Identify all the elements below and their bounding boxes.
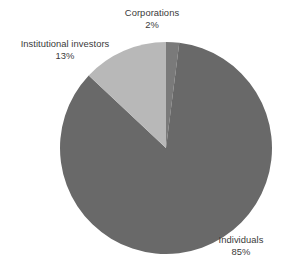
pie-label-institutional-investors-value: 13% xyxy=(2,50,128,62)
pie-label-institutional-investors-name: Institutional investors xyxy=(2,38,128,50)
pie-label-corporations-name: Corporations xyxy=(106,7,198,19)
pie-label-individuals-name: Individuals xyxy=(196,234,286,246)
pie-label-individuals-value: 85% xyxy=(196,246,286,258)
pie-chart-figure: Corporations 2% Institutional investors … xyxy=(0,0,288,276)
pie-label-individuals: Individuals 85% xyxy=(196,234,286,257)
pie-label-corporations-value: 2% xyxy=(106,19,198,31)
pie-slice-group xyxy=(60,42,272,254)
pie-label-corporations: Corporations 2% xyxy=(106,7,198,30)
pie-label-institutional-investors: Institutional investors 13% xyxy=(2,38,128,61)
